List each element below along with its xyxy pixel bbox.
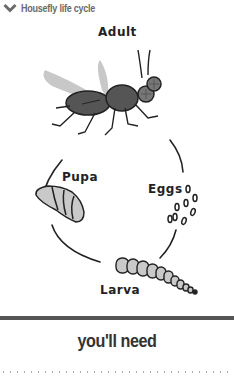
adult-fly-illustration <box>44 50 161 135</box>
dotted-divider <box>0 371 234 373</box>
section-title: Housefly life cycle <box>21 2 95 14</box>
stage-label-larva: Larva <box>100 283 140 297</box>
section-header-toggle[interactable]: Housefly life cycle <box>3 1 111 15</box>
chevron-down-icon <box>3 3 17 13</box>
life-cycle-diagram <box>0 14 234 310</box>
stage-label-pupa: Pupa <box>62 170 98 184</box>
stage-label-eggs: Eggs <box>148 182 183 196</box>
pupa-illustration <box>36 186 84 222</box>
section-divider <box>0 316 234 320</box>
stage-label-adult: Adult <box>98 25 137 39</box>
section-heading-you-ll-need: you'll need <box>18 330 217 352</box>
